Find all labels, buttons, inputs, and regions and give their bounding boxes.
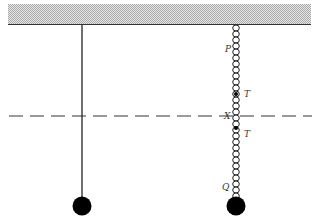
label-t-upper: T [244, 89, 251, 99]
string-pendulum [73, 25, 92, 216]
left-bob [73, 197, 92, 216]
chain-pendulum [233, 25, 240, 199]
label-q: Q [222, 182, 230, 192]
label-p: P [224, 44, 232, 54]
ceiling-support [8, 4, 311, 25]
right-bob [227, 197, 246, 216]
label-t-lower: T [244, 129, 251, 139]
tension-point-upper [234, 92, 238, 96]
label-x: X [223, 111, 231, 121]
tension-point-lower [234, 126, 238, 130]
pendulum-diagram: P T X T Q [0, 0, 315, 224]
